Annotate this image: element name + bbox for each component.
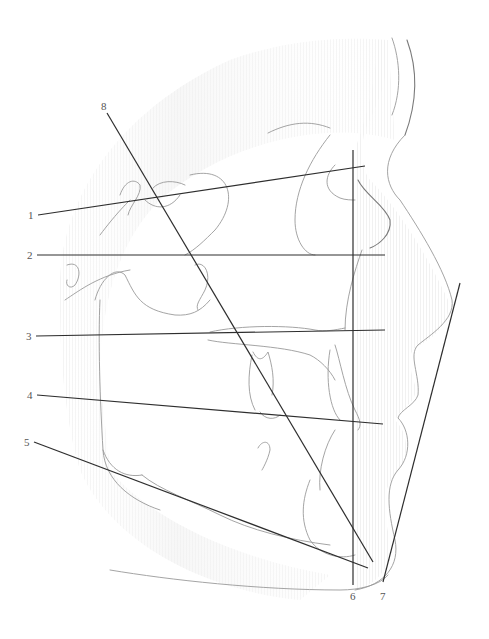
label-3: 3 xyxy=(26,330,32,342)
label-8: 8 xyxy=(101,100,107,112)
label-2: 2 xyxy=(27,249,33,261)
palate-and-teeth xyxy=(208,326,360,556)
label-5: 5 xyxy=(24,436,30,448)
cephalometric-diagram: 1 2 3 4 5 6 7 8 xyxy=(0,0,489,639)
skull-shading xyxy=(60,39,395,600)
label-6: 6 xyxy=(350,590,356,602)
label-1: 1 xyxy=(28,209,34,221)
label-7: 7 xyxy=(380,590,386,602)
label-4: 4 xyxy=(27,389,33,401)
reference-line-8 xyxy=(107,113,373,562)
